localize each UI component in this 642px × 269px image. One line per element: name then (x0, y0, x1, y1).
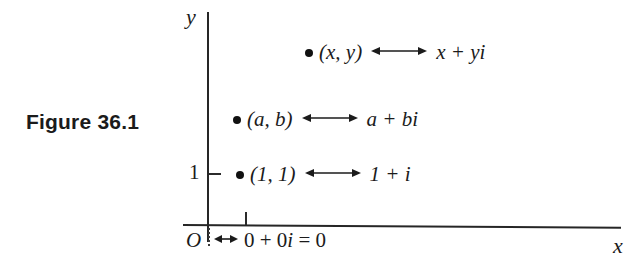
y-axis-tick-label-1: 1 (189, 160, 200, 185)
origin-label: O (186, 228, 201, 253)
figure-caption: Figure 36.1 (26, 110, 139, 134)
point-coords-11: (1, 1) (250, 162, 296, 187)
point-row-xy: (x, y) x + yi (305, 40, 485, 65)
origin-expression: 0 + 0i = 0 (244, 228, 326, 253)
y-axis-tick-1 (209, 173, 221, 175)
figure-canvas: Figure 36.1 y x 1 O (x, y) x + yi (a, b) (0, 0, 642, 269)
point-row-11: (1, 1) 1 + i (236, 162, 411, 187)
x-axis-label: x (613, 233, 623, 259)
point-marker-11 (236, 171, 244, 179)
point-row-ab: (a, b) a + bi (233, 107, 418, 132)
point-coords-xy: (x, y) (319, 40, 362, 65)
double-headed-arrow-icon (302, 111, 358, 129)
double-headed-arrow-icon (371, 44, 427, 62)
point-coords-ab: (a, b) (247, 107, 293, 132)
point-marker-xy (305, 49, 313, 57)
double-headed-arrow-icon (214, 232, 238, 250)
origin-mapping-row: 0 + 0i = 0 (214, 228, 326, 253)
origin-expression-suffix: = 0 (293, 228, 326, 252)
origin-guide-tick (208, 228, 210, 246)
point-expression-ab: a + bi (367, 107, 419, 132)
y-axis-label: y (186, 4, 196, 30)
point-expression-11: 1 + i (370, 162, 411, 187)
y-axis-line (207, 12, 209, 242)
origin-expression-prefix: 0 + 0 (244, 228, 287, 252)
point-marker-ab (233, 116, 241, 124)
double-headed-arrow-icon (305, 166, 361, 184)
point-expression-xy: x + yi (436, 40, 485, 65)
x-axis-tick-1 (245, 212, 247, 225)
